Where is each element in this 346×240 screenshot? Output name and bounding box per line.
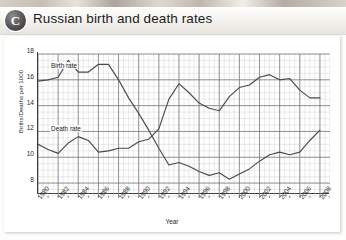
section-header: C Russian birth and death rates: [0, 7, 346, 35]
page-root: C Russian birth and death rates Births/D…: [0, 0, 346, 240]
y-axis-ticks: 18161412108: [14, 36, 34, 232]
x-axis-title: Year: [4, 218, 340, 225]
page-edge-bleed: [0, 0, 346, 7]
series-label-death-rate: Death rate: [50, 125, 82, 132]
y-tick-label: 16: [16, 74, 34, 81]
y-tick-label: 8: [16, 177, 34, 184]
plot-area: Birth rate Death rate: [37, 52, 329, 194]
series-label-birth-rate: Birth rate: [50, 62, 78, 69]
y-tick-label: 12: [16, 125, 34, 132]
y-tick-label: 10: [16, 151, 34, 158]
y-tick-label: 18: [16, 48, 34, 55]
y-tick-label: 14: [16, 100, 34, 107]
page-title: Russian birth and death rates: [33, 11, 212, 26]
chart-card: Births/Deaths per 1000 18161412108 Birth…: [4, 36, 340, 232]
section-badge: C: [5, 10, 26, 31]
